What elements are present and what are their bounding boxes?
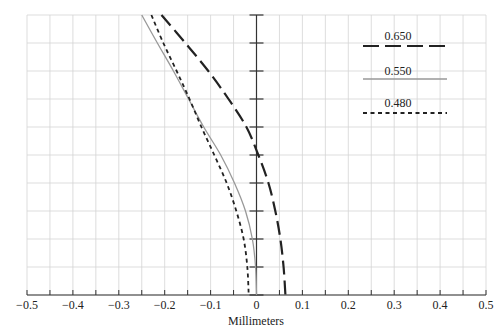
x-tick-label: −0.3	[108, 298, 130, 312]
legend-label-0550: 0.550	[385, 64, 412, 78]
x-tick-label: −0.2	[154, 298, 176, 312]
x-tick-label: 0.1	[295, 298, 310, 312]
x-tick-label: 0.5	[479, 298, 494, 312]
x-tick-label: 0.3	[387, 298, 402, 312]
chart: −0.5−0.4−0.3−0.2−0.100.10.20.30.40.5 0.6…	[0, 0, 502, 330]
x-tick-label: −0.1	[200, 298, 222, 312]
x-tick-label: 0.4	[433, 298, 448, 312]
legend-label-0480: 0.480	[385, 96, 412, 110]
x-axis-title: Millimeters	[228, 314, 284, 328]
x-tick-label: 0.2	[341, 298, 356, 312]
y-center-axis	[250, 15, 264, 295]
x-tick-label: −0.5	[16, 298, 38, 312]
x-axis: −0.5−0.4−0.3−0.2−0.100.10.20.30.40.5	[16, 290, 493, 312]
legend-label-0650: 0.650	[385, 29, 412, 43]
x-tick-label: 0	[254, 298, 260, 312]
x-tick-label: −0.4	[62, 298, 84, 312]
